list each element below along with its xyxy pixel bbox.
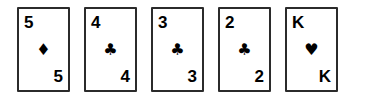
heart-suit-icon: ♥ (287, 42, 336, 58)
playing-card-hand: 5 ♦ 5 4 ♣ 4 3 ♣ 3 2 ♣ 2 K ♥ K (17, 7, 338, 92)
club-suit-icon: ♣ (86, 42, 135, 58)
card-rank-bottom-right: 4 (121, 68, 130, 85)
club-suit-icon: ♣ (220, 42, 269, 58)
playing-card[interactable]: 2 ♣ 2 (218, 7, 271, 92)
playing-card[interactable]: 5 ♦ 5 (17, 7, 70, 92)
card-rank-top-left: 5 (24, 14, 33, 31)
playing-card[interactable]: 4 ♣ 4 (84, 7, 137, 92)
card-rank-bottom-right: 2 (255, 68, 264, 85)
card-rank-bottom-right: 3 (188, 68, 197, 85)
card-rank-top-left: 2 (225, 14, 234, 31)
club-suit-icon: ♣ (153, 42, 202, 58)
playing-card[interactable]: K ♥ K (285, 7, 338, 92)
playing-card[interactable]: 3 ♣ 3 (151, 7, 204, 92)
card-rank-top-left: K (292, 14, 304, 31)
card-rank-top-left: 3 (158, 14, 167, 31)
card-rank-top-left: 4 (91, 14, 100, 31)
card-rank-bottom-right: K (319, 68, 331, 85)
card-rank-bottom-right: 5 (54, 68, 63, 85)
diamond-suit-icon: ♦ (19, 42, 68, 58)
